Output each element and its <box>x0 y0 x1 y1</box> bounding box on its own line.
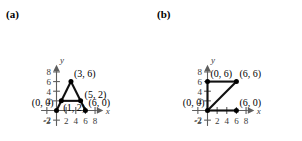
vertex-dot <box>68 79 73 84</box>
point-label: (3, 6) <box>74 68 96 80</box>
x-tick-label: 2 <box>215 116 220 126</box>
y-tick-label: 6 <box>47 77 52 87</box>
y-tick-label: 6 <box>198 77 203 87</box>
x-tick-label: 8 <box>93 116 98 126</box>
x-tick-label: 4 <box>74 116 79 126</box>
panel-b-plot: xy-224688642-2(0, 6)(6, 6)(0, 0)(6, 0) <box>151 0 302 141</box>
vertex-dot <box>205 108 210 113</box>
point-label: (0, 0) <box>183 97 205 109</box>
vertex-dot <box>54 108 59 113</box>
vertex-dot <box>234 79 239 84</box>
x-axis-arrow <box>248 107 255 113</box>
figure-root: (a) xy-224688642-2(3, 6)(5, 2)(0, 0)(1, … <box>0 0 302 141</box>
y-tick-label: 4 <box>198 87 203 97</box>
point-label: (6, 0) <box>88 97 110 109</box>
y-axis-name: y <box>210 55 215 65</box>
vertex-dot <box>205 79 210 84</box>
x-axis-arrow <box>97 107 104 113</box>
y-tick-label: 4 <box>47 87 52 97</box>
x-tick-label: 6 <box>83 116 88 126</box>
y-axis-arrow <box>53 65 59 72</box>
panel-b: (b) xy-224688642-2(0, 6)(6, 6)(0, 0)(6, … <box>151 0 302 141</box>
point-label: (0, 6) <box>211 68 233 80</box>
y-axis-name: y <box>59 55 64 65</box>
point-label: (0, 0) <box>32 97 54 109</box>
x-tick-label: 8 <box>244 116 249 126</box>
x-tick-label: 6 <box>234 116 239 126</box>
vertex-dot <box>234 108 239 113</box>
point-label: (1, 2) <box>63 102 85 114</box>
y-tick-label: 8 <box>47 67 52 77</box>
x-tick-label: 2 <box>64 116 69 126</box>
point-label: (6, 6) <box>239 68 261 80</box>
x-tick-label: 4 <box>225 116 230 126</box>
point-label: (6, 0) <box>239 97 261 109</box>
y-tick-label: -2 <box>44 115 52 125</box>
y-tick-label: -2 <box>195 115 203 125</box>
panel-a-plot: xy-224688642-2(3, 6)(5, 2)(0, 0)(1, 2)(6… <box>0 0 151 141</box>
panel-a: (a) xy-224688642-2(3, 6)(5, 2)(0, 0)(1, … <box>0 0 151 141</box>
shape-hypotenuse <box>208 82 237 111</box>
y-tick-label: 8 <box>198 67 203 77</box>
